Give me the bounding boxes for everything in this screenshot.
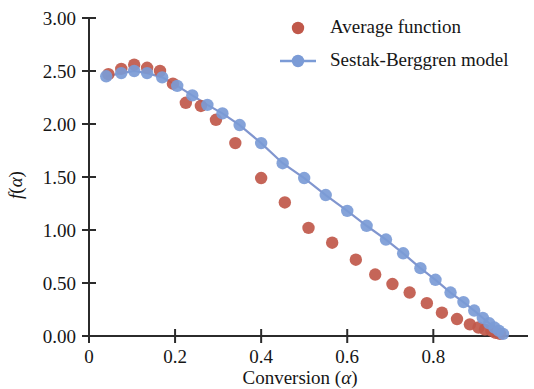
y-tick-label: 0.50	[43, 273, 76, 294]
y-axis-title: f(α)	[5, 171, 27, 199]
x-tick-label: 0.4	[249, 346, 273, 367]
y-tick-label: 1.50	[43, 167, 76, 188]
data-point	[403, 286, 415, 298]
data-point	[186, 89, 198, 101]
model-line	[106, 71, 503, 334]
y-tick-label: 1.00	[43, 220, 76, 241]
data-point	[436, 306, 448, 318]
x-tick-label: 0.2	[163, 346, 187, 367]
data-point	[279, 196, 291, 208]
data-point	[115, 67, 127, 79]
data-marker-layer	[100, 58, 509, 340]
data-point	[444, 286, 456, 298]
data-point	[414, 262, 426, 274]
legend-marker-swatch	[292, 22, 304, 34]
series-markers	[102, 58, 506, 340]
data-point	[128, 65, 140, 77]
data-point	[350, 253, 362, 265]
data-point	[100, 70, 112, 82]
data-point	[276, 157, 288, 169]
y-tick-label: 2.50	[43, 61, 76, 82]
data-point	[397, 247, 409, 259]
data-point	[421, 297, 433, 309]
legend-marker-swatch	[292, 55, 304, 67]
x-axis-title-main: Conversion (	[243, 367, 342, 389]
data-point	[497, 328, 509, 340]
data-point	[457, 296, 469, 308]
x-axis-tick-labels: 00.20.40.60.8	[84, 346, 445, 367]
data-point	[201, 99, 213, 111]
scatter-plot: 0.000.501.001.502.002.503.00 00.20.40.60…	[0, 0, 534, 389]
data-point	[156, 71, 168, 83]
data-point	[360, 220, 372, 232]
data-point	[171, 80, 183, 92]
data-point	[255, 172, 267, 184]
x-axis-title: Conversion (α)	[243, 367, 358, 389]
x-axis-title-close: )	[351, 367, 357, 389]
data-point	[386, 278, 398, 290]
data-point	[380, 233, 392, 245]
data-point	[369, 268, 381, 280]
data-point	[341, 205, 353, 217]
chart-legend: Average functionSestak-Berggren model	[280, 16, 509, 70]
legend-label: Average function	[330, 16, 462, 37]
data-point	[320, 189, 332, 201]
chart-figure: 0.000.501.001.502.002.503.00 00.20.40.60…	[0, 0, 534, 389]
data-point	[229, 137, 241, 149]
data-point	[216, 107, 228, 119]
data-point	[302, 222, 314, 234]
x-tick-label: 0	[84, 346, 94, 367]
data-point	[141, 67, 153, 79]
data-point	[233, 119, 245, 131]
series-markers	[100, 65, 509, 340]
svg-text:Conversion (α): Conversion (α)	[243, 367, 358, 389]
legend-label: Sestak-Berggren model	[330, 49, 509, 70]
y-tick-label: 2.00	[43, 114, 76, 135]
y-tick-label: 0.00	[43, 326, 76, 347]
data-point	[255, 137, 267, 149]
data-point	[326, 237, 338, 249]
model-line-layer	[106, 71, 503, 334]
x-tick-label: 0.6	[335, 346, 359, 367]
y-axis-tick-labels: 0.000.501.001.502.002.503.00	[43, 8, 76, 347]
data-point	[429, 274, 441, 286]
x-tick-label: 0.8	[421, 346, 445, 367]
svg-text:f(α): f(α)	[5, 171, 27, 199]
y-axis-title-close: )	[5, 171, 27, 177]
y-tick-label: 3.00	[43, 8, 76, 29]
data-point	[298, 172, 310, 184]
data-point	[451, 313, 463, 325]
